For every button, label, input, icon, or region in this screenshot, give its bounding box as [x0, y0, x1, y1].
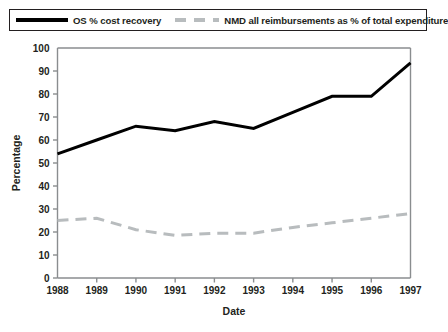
series-line-nmd-reimbursements [58, 214, 411, 236]
x-tick-label: 1988 [46, 285, 69, 296]
x-tick-label: 1993 [242, 285, 265, 296]
plot-frame [58, 48, 411, 278]
x-tick-label: 1990 [125, 285, 148, 296]
x-tick-label: 1996 [360, 285, 383, 296]
y-tick-label: 20 [38, 227, 50, 238]
y-tick-label: 30 [38, 204, 50, 215]
x-tick-label: 1991 [164, 285, 187, 296]
y-tick-label: 0 [44, 273, 50, 284]
y-tick-label: 70 [38, 112, 50, 123]
x-tick-label: 1997 [399, 285, 422, 296]
y-axis-title: Percentage [10, 135, 22, 192]
x-tick-label: 1992 [203, 285, 226, 296]
x-axis-title: Date [223, 305, 246, 317]
y-tick-label: 10 [38, 250, 50, 261]
y-tick-label: 80 [38, 89, 50, 100]
x-axis-tick-labels: 1988198919901991199219931994199519961997 [46, 285, 422, 296]
x-tick-label: 1994 [282, 285, 305, 296]
y-tick-label: 100 [33, 43, 50, 54]
y-tick-label: 60 [38, 135, 50, 146]
data-series-group [58, 63, 411, 236]
y-axis-tick-labels: 0102030405060708090100 [33, 43, 50, 284]
y-tick-label: 50 [38, 158, 50, 169]
series-line-os-cost-recovery [58, 63, 411, 154]
y-tick-label: 40 [38, 181, 50, 192]
x-tick-label: 1989 [86, 285, 109, 296]
y-tick-label: 90 [38, 66, 50, 77]
x-tick-label: 1995 [321, 285, 344, 296]
